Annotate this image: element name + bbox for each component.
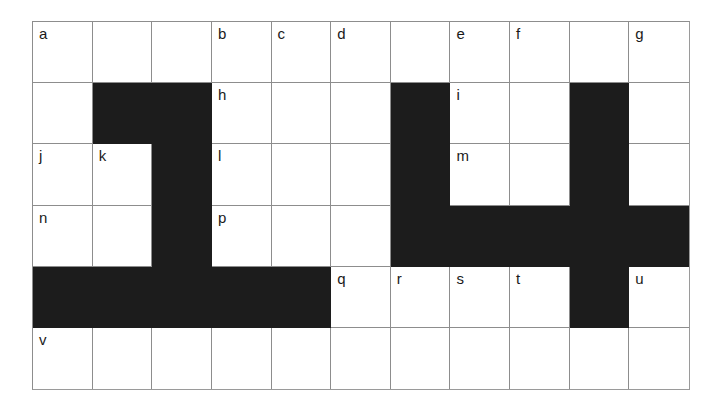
cell-label: q xyxy=(337,270,345,287)
grid-cell[interactable]: f xyxy=(510,22,570,83)
grid-cell-blocked[interactable] xyxy=(510,206,570,267)
grid-cell[interactable] xyxy=(272,206,332,267)
grid-cell[interactable]: m xyxy=(450,144,510,205)
grid-cell-blocked[interactable] xyxy=(212,267,272,328)
grid-cell-blocked[interactable] xyxy=(272,267,332,328)
grid-cell[interactable] xyxy=(331,328,391,389)
grid-cell[interactable]: r xyxy=(391,267,451,328)
grid-cell[interactable] xyxy=(272,144,332,205)
grid-cell[interactable]: a xyxy=(33,22,93,83)
cell-label: u xyxy=(635,270,643,287)
grid-cell[interactable]: t xyxy=(510,267,570,328)
grid-cell[interactable]: b xyxy=(212,22,272,83)
grid-cell[interactable] xyxy=(391,328,451,389)
grid-cell[interactable] xyxy=(93,22,153,83)
grid-cell[interactable] xyxy=(450,328,510,389)
grid-cell[interactable] xyxy=(510,328,570,389)
grid-cell[interactable] xyxy=(152,328,212,389)
grid-cell[interactable] xyxy=(331,144,391,205)
grid-cell-blocked[interactable] xyxy=(33,267,93,328)
grid-cell[interactable]: g xyxy=(629,22,689,83)
grid-cell-blocked[interactable] xyxy=(93,267,153,328)
cell-label: i xyxy=(456,86,459,103)
cell-label: l xyxy=(218,147,221,164)
cell-label: j xyxy=(39,147,42,164)
grid-cell[interactable] xyxy=(629,144,689,205)
grid-cell[interactable]: p xyxy=(212,206,272,267)
cell-label: a xyxy=(39,25,47,42)
grid-cell-blocked[interactable] xyxy=(391,144,451,205)
grid-cell-blocked[interactable] xyxy=(93,83,153,144)
cell-label: p xyxy=(218,209,226,226)
cell-label: s xyxy=(456,270,464,287)
grid-cell[interactable] xyxy=(510,144,570,205)
grid-cell[interactable] xyxy=(93,206,153,267)
cell-label: b xyxy=(218,25,226,42)
grid-cell[interactable]: h xyxy=(212,83,272,144)
grid-cell-blocked[interactable] xyxy=(629,206,689,267)
cell-label: k xyxy=(99,147,107,164)
grid-cell[interactable] xyxy=(152,22,212,83)
cell-label: v xyxy=(39,331,47,348)
grid-cell-blocked[interactable] xyxy=(570,144,630,205)
cell-label: g xyxy=(635,25,643,42)
grid-cell-blocked[interactable] xyxy=(450,206,510,267)
grid-cell[interactable]: n xyxy=(33,206,93,267)
grid-cell[interactable]: d xyxy=(331,22,391,83)
grid-cell-blocked[interactable] xyxy=(570,83,630,144)
grid-cell[interactable] xyxy=(391,22,451,83)
grid-cell[interactable] xyxy=(510,83,570,144)
grid-cell[interactable] xyxy=(93,328,153,389)
cell-label: f xyxy=(516,25,520,42)
grid-cell[interactable]: i xyxy=(450,83,510,144)
grid-cell[interactable] xyxy=(272,328,332,389)
grid-cell[interactable] xyxy=(570,22,630,83)
grid-diagram: abcdefghijklmnpqrstuv xyxy=(32,21,690,390)
grid-cell-blocked[interactable] xyxy=(570,267,630,328)
grid-cell-blocked[interactable] xyxy=(152,83,212,144)
grid-cell[interactable]: l xyxy=(212,144,272,205)
grid-cell[interactable] xyxy=(570,328,630,389)
grid-cell[interactable] xyxy=(629,328,689,389)
grid-cell[interactable] xyxy=(33,83,93,144)
grid-cell[interactable] xyxy=(331,206,391,267)
cell-label: n xyxy=(39,209,47,226)
grid-cell[interactable]: q xyxy=(331,267,391,328)
grid-cell[interactable]: u xyxy=(629,267,689,328)
cell-label: m xyxy=(456,147,469,164)
grid-cell[interactable]: v xyxy=(33,328,93,389)
grid-cell[interactable] xyxy=(212,328,272,389)
grid-cell[interactable]: j xyxy=(33,144,93,205)
cell-label: d xyxy=(337,25,345,42)
grid-cell-blocked[interactable] xyxy=(152,267,212,328)
grid-cell[interactable]: k xyxy=(93,144,153,205)
grid-cell-blocked[interactable] xyxy=(152,144,212,205)
grid-cell-blocked[interactable] xyxy=(152,206,212,267)
grid-cell[interactable] xyxy=(331,83,391,144)
cell-label: e xyxy=(456,25,464,42)
cell-label: t xyxy=(516,270,520,287)
grid-cell-blocked[interactable] xyxy=(391,83,451,144)
cell-label: r xyxy=(397,270,402,287)
cell-label: c xyxy=(278,25,286,42)
cell-label: h xyxy=(218,86,226,103)
grid-cell[interactable] xyxy=(272,83,332,144)
grid-cell[interactable] xyxy=(629,83,689,144)
grid-cell-blocked[interactable] xyxy=(391,206,451,267)
grid-cell[interactable]: s xyxy=(450,267,510,328)
grid-cell[interactable]: e xyxy=(450,22,510,83)
grid-cell-blocked[interactable] xyxy=(570,206,630,267)
grid-cell[interactable]: c xyxy=(272,22,332,83)
